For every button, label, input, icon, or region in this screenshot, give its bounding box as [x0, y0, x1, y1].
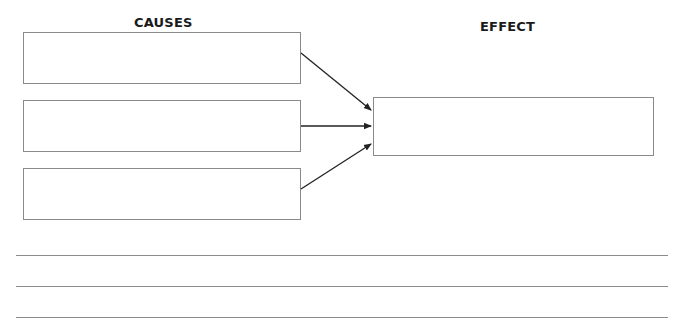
writing-line-2[interactable]	[16, 286, 668, 287]
writing-line-1[interactable]	[16, 255, 668, 256]
arrow-3	[301, 144, 371, 189]
arrow-1	[301, 53, 371, 110]
writing-line-3[interactable]	[16, 317, 668, 318]
